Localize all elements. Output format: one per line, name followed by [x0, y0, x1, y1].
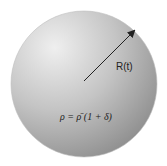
sphere: [11, 11, 157, 157]
radius-label: R(t): [116, 61, 133, 72]
density-equation: ρ = ρ̄ (1 + δ): [59, 111, 113, 123]
sphere-diagram: R(t) ρ = ρ̄ (1 + δ): [0, 0, 167, 166]
